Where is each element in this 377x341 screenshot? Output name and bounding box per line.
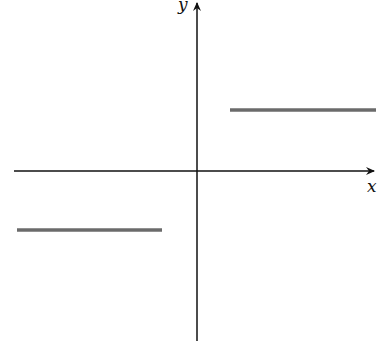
x-axis-label: x: [367, 176, 377, 196]
y-axis-label: y: [178, 0, 188, 14]
